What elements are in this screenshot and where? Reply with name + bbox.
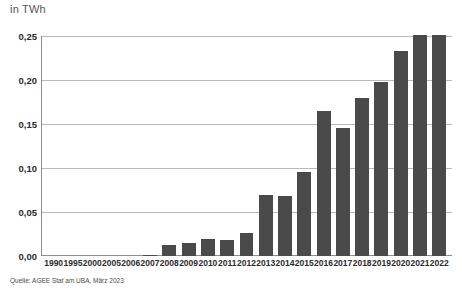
x-tick-label: 2022 — [430, 258, 449, 272]
bar[interactable] — [182, 243, 196, 256]
bar-slot — [218, 36, 237, 256]
y-tick-label: 0,10 — [3, 163, 37, 174]
y-axis: 0,000,050,100,150,200,25 — [0, 36, 37, 256]
bar-slot — [179, 36, 198, 256]
x-tick-label: 2011 — [218, 258, 237, 272]
bar-slot — [410, 36, 429, 256]
x-tick-label: 2016 — [314, 258, 333, 272]
bar-slot — [83, 36, 102, 256]
bar-slot — [63, 36, 82, 256]
bar-slot — [391, 36, 410, 256]
y-tick-label: 0,20 — [3, 75, 37, 86]
x-tick-label: 2015 — [295, 258, 314, 272]
x-tick-label: 2014 — [275, 258, 294, 272]
bar[interactable] — [201, 239, 215, 256]
bar-slot — [314, 36, 333, 256]
bar-slot — [256, 36, 275, 256]
x-tick-label: 2021 — [410, 258, 429, 272]
bar-slot — [430, 36, 449, 256]
bar-slot — [121, 36, 140, 256]
bar-slot — [275, 36, 294, 256]
bar-slot — [295, 36, 314, 256]
bar[interactable] — [413, 35, 427, 256]
bar-slot — [102, 36, 121, 256]
bar[interactable] — [394, 51, 408, 256]
x-tick-label: 2013 — [256, 258, 275, 272]
x-tick-label: 2010 — [198, 258, 217, 272]
bar[interactable] — [162, 245, 176, 256]
x-tick-label: 1995 — [63, 258, 82, 272]
bar-slot — [44, 36, 63, 256]
x-tick-label: 2020 — [391, 258, 410, 272]
x-tick-label: 2006 — [121, 258, 140, 272]
bar-slot — [198, 36, 217, 256]
x-tick-label: 2005 — [102, 258, 121, 272]
bar[interactable] — [336, 128, 350, 256]
x-tick-label: 2009 — [179, 258, 198, 272]
x-tick-label: 2000 — [83, 258, 102, 272]
x-tick-label: 1990 — [44, 258, 63, 272]
bar-slot — [333, 36, 352, 256]
bar-slot — [160, 36, 179, 256]
y-tick-label: 0,05 — [3, 207, 37, 218]
bar-slot — [237, 36, 256, 256]
y-tick-label: 0,25 — [3, 31, 37, 42]
x-tick-label: 2012 — [237, 258, 256, 272]
bar[interactable] — [259, 195, 273, 256]
bar-slot — [140, 36, 159, 256]
x-tick-label: 2019 — [372, 258, 391, 272]
x-tick-label: 2008 — [160, 258, 179, 272]
bar[interactable] — [355, 98, 369, 256]
y-tick-label: 0,00 — [3, 251, 37, 262]
x-tick-label: 2018 — [353, 258, 372, 272]
chart-title: in TWh — [10, 3, 46, 15]
x-tick-label: 2017 — [333, 258, 352, 272]
x-tick-label: 2007 — [140, 258, 159, 272]
bar[interactable] — [317, 111, 331, 256]
bar[interactable] — [432, 35, 446, 256]
x-axis: 1990199520002005200620072008200920102011… — [41, 258, 452, 272]
bar-slot — [353, 36, 372, 256]
bar[interactable] — [374, 82, 388, 256]
bar-slot — [372, 36, 391, 256]
bar[interactable] — [278, 196, 292, 256]
bar[interactable] — [220, 240, 234, 256]
bar[interactable] — [143, 255, 157, 256]
bar[interactable] — [240, 233, 254, 256]
bars-container — [41, 36, 452, 256]
bar[interactable] — [297, 172, 311, 256]
y-tick-label: 0,15 — [3, 119, 37, 130]
source-note: Quelle: AGEE Stat am UBA, März 2023 — [10, 277, 124, 284]
